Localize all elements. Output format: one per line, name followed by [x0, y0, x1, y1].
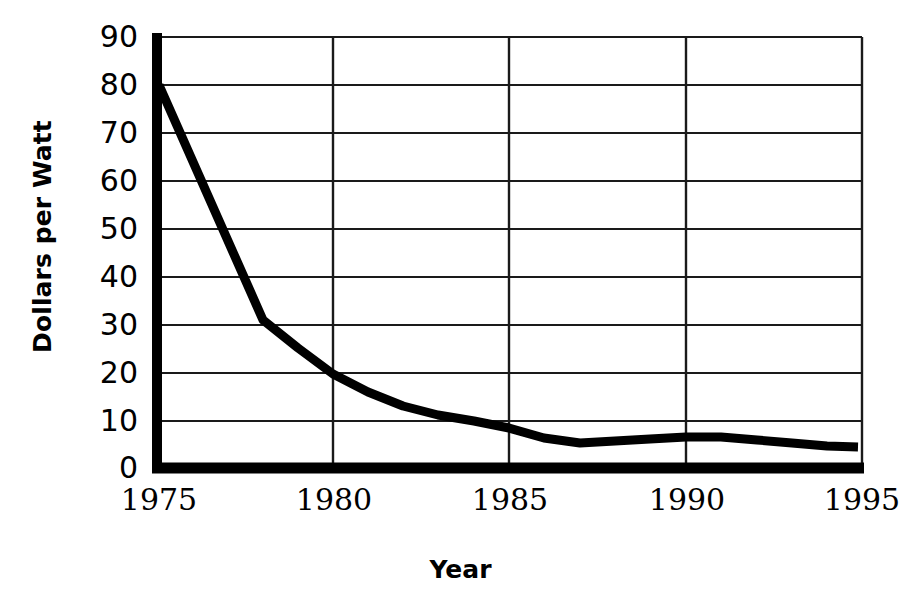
x-tick-label: 1980	[274, 484, 394, 516]
x-tick-label: 1995	[802, 484, 921, 516]
x-axis-title: Year	[0, 555, 921, 584]
x-tick-label: 1985	[450, 484, 570, 516]
line-chart-plot	[0, 0, 921, 540]
vertical-gridlines	[333, 37, 862, 468]
x-tick-label: 1975	[99, 484, 219, 516]
line-chart-figure: Dollars per Watt 90 80 70 60 50 40 30 20…	[0, 0, 921, 609]
x-tick-label: 1990	[627, 484, 747, 516]
x-axis-tick-labels: 1975 1980 1985 1990 1995	[0, 484, 921, 534]
